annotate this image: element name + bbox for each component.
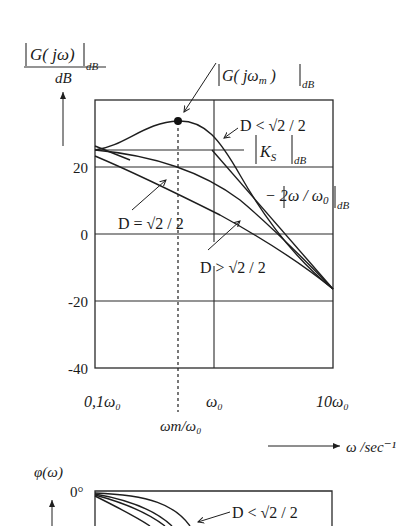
asymptote-label-sub: dB [337, 199, 350, 211]
y-label-denominator: dB [55, 70, 72, 86]
d-greater-label: D > √2 / 2 [200, 259, 266, 276]
magnitude-axis-label: G( jω) dB dB [24, 43, 106, 86]
ytick-20: 20 [73, 160, 88, 176]
xtick-omega0: ω₀ [206, 393, 223, 410]
ks-label: KS [259, 143, 277, 163]
ks-label-sub: dB [294, 154, 307, 166]
phase-curve-3 [95, 495, 165, 526]
x-axis-label: ω /sec⁻¹ [346, 439, 397, 455]
ytick-0: 0 [81, 227, 89, 243]
annotation-d-equal: D = √2 / 2 [118, 180, 184, 232]
xtick-10-omega0: 10ω₀ [316, 393, 349, 410]
d-less-label: D < √2 / 2 [240, 117, 306, 134]
annotation-ks: KS dB [256, 135, 307, 166]
annotation-asymptote: − 2 ω / ω0 dB [265, 186, 350, 211]
phase-annotation-arrow [198, 512, 230, 522]
phase-curves [95, 493, 190, 526]
phase-d-less-label: D < √2 / 2 [232, 504, 298, 521]
phase-axis-label: φ(ω) [34, 464, 63, 481]
y-label-numerator-sub: dB [86, 60, 99, 72]
bode-diagram: G( jω) dB dB 20 0 -20 -40 [0, 0, 415, 526]
phase-ytick-0: 0° [70, 484, 84, 500]
d-equal-label: D = √2 / 2 [118, 215, 184, 232]
resonance-peak-dot [174, 117, 182, 125]
omega-m-label: ωm/ω₀ [160, 418, 201, 434]
peak-label: G( jωm ) [222, 67, 276, 86]
x-ticks: 0,1ω₀ ω₀ 10ω₀ ωm/ω₀ [84, 393, 349, 434]
xtick-0-1-omega0: 0,1ω₀ [84, 393, 121, 410]
peak-label-sub: dB [302, 78, 315, 90]
ytick-minus20: -20 [68, 294, 88, 310]
svg-text:ω / ω0: ω / ω0 [288, 187, 329, 206]
annotation-peak: G( jωm ) dB [184, 63, 315, 112]
annotation-d-less: D < √2 / 2 [224, 117, 306, 138]
annotation-d-greater: D > √2 / 2 [200, 221, 266, 276]
y-label-numerator: G( jω) [30, 45, 75, 64]
ytick-minus40: -40 [68, 361, 88, 377]
y-ticks: 20 0 -20 -40 [68, 160, 88, 377]
